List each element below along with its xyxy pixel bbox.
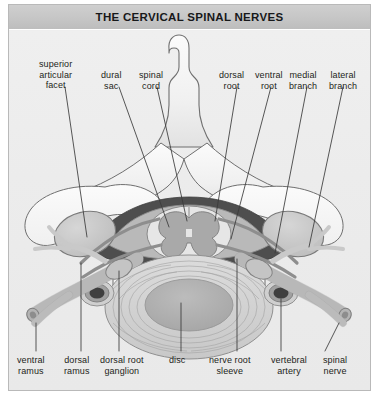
illustration-panel: THE CERVICAL SPINAL NERVES xyxy=(8,4,371,391)
label-line: vertebral xyxy=(271,355,307,366)
lateral-branch-left xyxy=(35,248,69,250)
label-line: nerve root xyxy=(209,355,251,366)
label-vertebral-artery: vertebral artery xyxy=(271,355,307,376)
label-spinal-cord: spinal cord xyxy=(139,70,163,91)
spinous-process xyxy=(155,35,213,147)
label-disc: disc xyxy=(169,355,185,366)
label-lateral-branch: lateral branch xyxy=(329,70,357,91)
label-line: sleeve xyxy=(209,366,251,377)
nucleus-pulposus xyxy=(145,279,233,331)
label-line: dural xyxy=(101,70,122,81)
label-line: artery xyxy=(271,366,307,377)
label-line: lateral xyxy=(329,70,357,81)
label-dorsal-root-ganglion: dorsal root ganglion xyxy=(100,355,144,376)
label-line: root xyxy=(255,81,283,92)
label-nerve-root-sleeve: nerve root sleeve xyxy=(209,355,251,376)
label-line: cord xyxy=(139,81,163,92)
central-canal xyxy=(186,229,192,237)
label-line: branch xyxy=(289,81,317,92)
label-line: medial xyxy=(289,70,317,81)
title-bar: THE CERVICAL SPINAL NERVES xyxy=(9,5,370,30)
label-line: spinal xyxy=(139,70,163,81)
leader-spinal-nerve xyxy=(325,323,339,351)
figure-root: THE CERVICAL SPINAL NERVES xyxy=(0,0,379,399)
label-dural-sac: dural sac xyxy=(101,70,122,91)
label-line: branch xyxy=(329,81,357,92)
label-superior-articular-facet: superior articular facet xyxy=(39,59,72,91)
label-line: dorsal root xyxy=(100,355,144,366)
lateral-branch-right xyxy=(309,248,343,250)
label-line: articular xyxy=(39,70,72,81)
label-line: dorsal xyxy=(64,355,90,366)
label-line: ventral xyxy=(255,70,283,81)
label-line: ganglion xyxy=(100,366,144,377)
label-line: root xyxy=(219,81,244,92)
label-dorsal-root: dorsal root xyxy=(219,70,244,91)
label-line: ventral xyxy=(17,355,45,366)
label-line: ramus xyxy=(64,366,90,377)
label-ventral-root: ventral root xyxy=(255,70,283,91)
page-title: THE CERVICAL SPINAL NERVES xyxy=(9,5,370,30)
label-dorsal-ramus: dorsal ramus xyxy=(64,355,90,376)
label-line: disc xyxy=(169,355,185,366)
label-line: sac xyxy=(101,81,122,92)
label-line: spinal xyxy=(323,355,347,366)
illustration-canvas: superior articular facet dural sac spina… xyxy=(9,31,370,391)
label-line: facet xyxy=(39,80,72,91)
label-medial-branch: medial branch xyxy=(289,70,317,91)
label-line: dorsal xyxy=(219,70,244,81)
label-line: ramus xyxy=(17,366,45,377)
label-line: nerve xyxy=(323,366,347,377)
label-ventral-ramus: ventral ramus xyxy=(17,355,45,376)
label-line: superior xyxy=(39,59,72,70)
label-spinal-nerve: spinal nerve xyxy=(323,355,347,376)
